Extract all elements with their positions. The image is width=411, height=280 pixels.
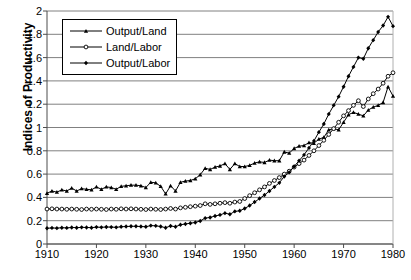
data-point <box>208 215 212 219</box>
legend-item-land-labor[interactable]: Land/Labor <box>65 39 174 55</box>
data-point <box>109 207 113 211</box>
data-point <box>114 225 118 229</box>
data-point <box>218 213 222 217</box>
data-point <box>188 221 192 225</box>
data-point <box>263 185 267 189</box>
data-point <box>144 225 148 229</box>
data-point <box>84 61 88 65</box>
data-point <box>95 207 99 211</box>
data-point <box>347 74 351 78</box>
data-point <box>60 225 64 229</box>
data-point <box>124 207 128 211</box>
data-point <box>45 207 49 211</box>
data-point <box>317 144 321 148</box>
data-point <box>223 211 227 215</box>
data-point <box>169 224 173 228</box>
data-point <box>342 114 346 118</box>
data-point <box>351 110 355 114</box>
open-circle-marker-icon <box>69 41 103 53</box>
data-point <box>104 208 108 212</box>
data-point <box>154 207 158 211</box>
series-line <box>47 87 393 194</box>
data-point <box>228 212 232 216</box>
data-point <box>55 207 59 211</box>
data-point <box>55 226 59 230</box>
legend-item-output-land[interactable]: Output/Land <box>65 23 174 39</box>
data-point <box>164 207 168 211</box>
data-point <box>218 201 222 205</box>
data-point <box>85 207 89 211</box>
data-point <box>381 100 385 104</box>
data-point <box>60 188 64 192</box>
data-point <box>312 149 316 153</box>
data-point <box>302 158 306 162</box>
data-point <box>84 45 88 49</box>
data-point <box>119 207 123 211</box>
data-point <box>258 188 262 192</box>
data-point <box>223 201 227 205</box>
data-point <box>386 85 390 89</box>
data-point <box>154 224 158 228</box>
data-point <box>164 225 168 229</box>
data-point <box>174 225 178 229</box>
data-point <box>381 81 385 85</box>
data-point <box>198 219 202 223</box>
data-point <box>238 200 242 204</box>
data-point <box>139 224 143 228</box>
data-point <box>248 194 252 198</box>
legend-item-output-labor[interactable]: Output/Labor <box>65 55 174 71</box>
data-point <box>376 87 380 91</box>
data-point <box>238 209 242 213</box>
data-point <box>70 207 74 211</box>
data-point <box>178 223 182 227</box>
data-point <box>347 109 351 113</box>
data-point <box>99 207 103 211</box>
data-point <box>386 74 390 78</box>
data-point <box>307 154 311 158</box>
data-point <box>233 200 237 204</box>
data-point <box>322 138 326 142</box>
data-point <box>342 85 346 89</box>
filled-diamond-marker-icon <box>69 57 103 69</box>
data-point <box>94 225 98 229</box>
data-point <box>337 120 341 124</box>
series-output-land <box>45 85 395 196</box>
data-point <box>139 207 143 211</box>
data-point <box>159 208 163 212</box>
legend-label: Output/Labor <box>103 57 170 69</box>
data-point <box>119 225 123 229</box>
data-point <box>80 208 84 212</box>
legend-label: Land/Labor <box>103 41 162 53</box>
data-point <box>109 225 113 229</box>
data-point <box>268 182 272 186</box>
data-point <box>174 207 178 211</box>
data-point <box>391 71 395 75</box>
data-point <box>65 207 69 211</box>
data-point <box>253 191 257 195</box>
data-point <box>129 224 133 228</box>
data-point <box>223 162 227 166</box>
data-point <box>277 176 281 180</box>
data-point <box>144 208 148 212</box>
data-point <box>272 179 276 183</box>
data-point <box>104 225 108 229</box>
data-point <box>159 224 163 228</box>
data-point <box>233 209 237 213</box>
data-point <box>213 202 217 206</box>
series-line <box>47 73 393 210</box>
data-point <box>213 214 217 218</box>
legend-label: Output/Land <box>103 25 167 37</box>
data-point <box>361 105 365 109</box>
data-point <box>94 185 98 189</box>
data-point <box>50 207 54 211</box>
data-point <box>198 204 202 208</box>
data-point <box>129 207 133 211</box>
data-point <box>366 108 370 112</box>
data-point <box>169 207 173 211</box>
data-point <box>149 223 153 227</box>
data-point <box>366 97 370 101</box>
data-point <box>50 189 54 193</box>
data-point <box>134 207 138 211</box>
data-point <box>45 226 49 230</box>
data-point <box>332 127 336 131</box>
